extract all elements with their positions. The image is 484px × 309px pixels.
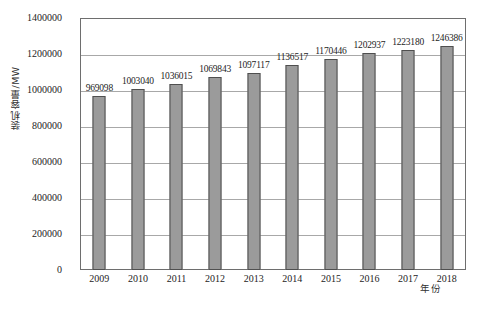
x-tick-label: 2013: [234, 273, 273, 284]
x-axis-title: 年份: [420, 281, 441, 295]
x-tick-label: 2009: [80, 273, 119, 284]
y-tick-label: 0: [0, 265, 62, 275]
y-tick-label: 600000: [0, 157, 62, 167]
x-tick-label: 2010: [119, 273, 158, 284]
x-tick-label: 2012: [196, 273, 235, 284]
x-tick-label: 2016: [350, 273, 389, 284]
x-tick-label: 2014: [273, 273, 312, 284]
gridline: [81, 235, 465, 236]
y-tick-label: 1400000: [0, 13, 62, 23]
figure-caption: [0, 303, 484, 309]
plot-area: [80, 18, 466, 270]
y-tick-label: 200000: [0, 229, 62, 239]
y-tick-label: 400000: [0, 193, 62, 203]
gridline: [81, 91, 465, 92]
gridline: [81, 127, 465, 128]
gridline: [81, 199, 465, 200]
gridline: [81, 163, 465, 164]
x-tick-label: 2011: [157, 273, 196, 284]
y-tick-label: 800000: [0, 121, 62, 131]
x-tick-label: 2015: [312, 273, 351, 284]
bar-chart-figure: 装机容量/MW 02000004000006000008000001000000…: [0, 0, 484, 309]
y-tick-label: 1200000: [0, 49, 62, 59]
y-tick-label: 1000000: [0, 85, 62, 95]
x-axis-tick-labels: 2009201020112012201320142015201620172018: [80, 273, 466, 287]
gridline: [81, 55, 465, 56]
